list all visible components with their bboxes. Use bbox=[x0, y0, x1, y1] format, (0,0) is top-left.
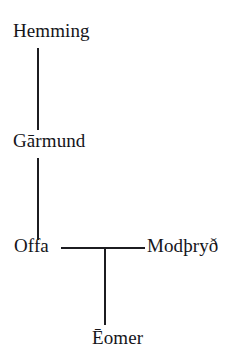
edge-garmund-to-offa bbox=[37, 158, 39, 240]
edge-offa-marriage-modthryth bbox=[61, 247, 145, 249]
node-modthryth: Modþryð bbox=[147, 236, 218, 255]
edge-hemming-to-garmund bbox=[37, 48, 39, 130]
node-eomer: Ēomer bbox=[92, 328, 143, 347]
node-garmund: Gārmund bbox=[13, 131, 85, 150]
family-tree-diagram: Hemming Gārmund Offa Modþryð Ēomer bbox=[0, 0, 244, 361]
node-hemming: Hemming bbox=[13, 21, 90, 40]
node-offa: Offa bbox=[14, 236, 49, 255]
edge-marriage-to-eomer bbox=[104, 247, 106, 325]
